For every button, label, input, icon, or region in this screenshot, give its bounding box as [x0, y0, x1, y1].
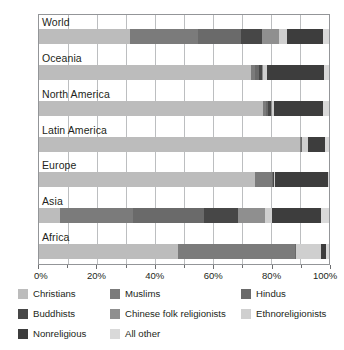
legend-label: Buddhists	[33, 308, 75, 319]
stacked-bar	[39, 208, 329, 223]
bar-segment-chinese-folk-religionists	[238, 208, 266, 223]
legend-item-christians[interactable]: Christians	[18, 288, 76, 299]
x-tick	[155, 265, 156, 269]
bar-segment-christians	[39, 101, 263, 116]
legend-label: Hindus	[256, 288, 286, 299]
x-axis: 0%20%40%60%80%100%	[38, 265, 330, 287]
legend-item-hindus[interactable]: Hindus	[241, 288, 286, 299]
bar-segment-nonreligious	[272, 208, 322, 223]
row-label-asia: Asia	[42, 195, 63, 208]
legend-item-chinese-folk-religionists[interactable]: Chinese folk religionists	[110, 308, 226, 319]
bar-segment-christians	[39, 244, 178, 259]
stacked-bar-chart: WorldOceaniaNorth AmericaLatin AmericaEu…	[0, 0, 344, 350]
x-tick-minor	[67, 265, 68, 268]
bar-segment-ethnoreligionists	[279, 29, 288, 44]
plot-area: WorldOceaniaNorth AmericaLatin AmericaEu…	[38, 14, 330, 265]
bar-segment-muslims	[130, 29, 197, 44]
bar-segment-hindus	[133, 208, 205, 223]
bar-segment-all-other	[323, 101, 329, 116]
legend-swatch	[110, 309, 120, 319]
row-label-oceania: Oceania	[42, 52, 82, 65]
legend-swatch	[241, 289, 251, 299]
bar-segment-chinese-folk-religionists	[262, 29, 279, 44]
x-tick-label: 80%	[262, 270, 281, 281]
bar-row: Europe	[39, 158, 329, 194]
bar-segment-nonreligious	[308, 137, 325, 152]
stacked-bar	[39, 137, 329, 152]
x-tick	[272, 265, 273, 269]
bar-segment-nonreligious	[287, 29, 322, 44]
chart-legend: ChristiansMuslimsHindusBuddhistsChinese …	[18, 288, 344, 346]
legend-item-ethnoreligionists[interactable]: Ethnoreligionists	[241, 308, 326, 319]
x-tick	[38, 265, 39, 269]
bar-segment-all-other	[328, 172, 329, 187]
stacked-bar	[39, 172, 329, 187]
bar-segment-muslims	[60, 208, 133, 223]
bar-row: Africa	[39, 230, 329, 266]
x-tick	[330, 265, 331, 269]
legend-swatch	[110, 329, 120, 339]
legend-swatch	[18, 329, 28, 339]
legend-label: Ethnoreligionists	[256, 308, 326, 319]
row-label-africa: Africa	[42, 231, 69, 244]
x-tick-label: 40%	[145, 270, 164, 281]
bar-segment-hindus	[198, 29, 242, 44]
legend-swatch	[110, 289, 120, 299]
bar-row: North America	[39, 87, 329, 123]
legend-label: Chinese folk religionists	[125, 308, 226, 319]
bar-segment-christians	[39, 208, 60, 223]
x-tick-label: 20%	[87, 270, 106, 281]
bar-row: Latin America	[39, 123, 329, 159]
legend-label: Nonreligious	[33, 328, 86, 339]
bar-segment-muslims	[255, 172, 272, 187]
bar-segment-christians	[39, 137, 300, 152]
bar-segment-christians	[39, 65, 251, 80]
x-tick-minor	[242, 265, 243, 268]
x-tick-minor	[126, 265, 127, 268]
row-label-latin-america: Latin America	[42, 124, 107, 137]
bar-segment-ethnoreligionists	[296, 244, 321, 259]
row-label-north-america: North America	[42, 88, 110, 101]
legend-swatch	[241, 309, 251, 319]
bar-segment-all-other	[326, 244, 329, 259]
bar-segment-muslims	[178, 244, 296, 259]
x-tick-minor	[301, 265, 302, 268]
bar-segment-all-other	[323, 29, 329, 44]
legend-swatch	[18, 309, 28, 319]
x-tick	[213, 265, 214, 269]
stacked-bar	[39, 65, 329, 80]
x-tick-label: 100%	[313, 270, 337, 281]
bar-row: World	[39, 15, 329, 51]
legend-item-all-other[interactable]: All other	[110, 328, 160, 339]
legend-item-buddhists[interactable]: Buddhists	[18, 308, 75, 319]
row-label-europe: Europe	[42, 159, 76, 172]
bar-segment-christians	[39, 172, 255, 187]
bar-segment-nonreligious	[275, 172, 327, 187]
legend-item-nonreligious[interactable]: Nonreligious	[18, 328, 86, 339]
bar-row: Oceania	[39, 51, 329, 87]
x-tick-label: 0%	[34, 270, 48, 281]
bar-segment-all-other	[325, 137, 329, 152]
legend-label: Christians	[33, 288, 76, 299]
x-tick-minor	[184, 265, 185, 268]
bar-segment-nonreligious	[267, 65, 324, 80]
bar-segment-nonreligious	[274, 101, 324, 116]
legend-label: All other	[125, 328, 160, 339]
stacked-bar	[39, 29, 329, 44]
legend-item-muslims[interactable]: Muslims	[110, 288, 160, 299]
bar-segment-buddhists	[204, 208, 237, 223]
stacked-bar	[39, 244, 329, 259]
x-tick-label: 60%	[204, 270, 223, 281]
bar-segment-buddhists	[241, 29, 262, 44]
legend-label: Muslims	[125, 288, 160, 299]
bar-segment-all-other	[321, 208, 329, 223]
bar-row: Asia	[39, 194, 329, 230]
stacked-bar	[39, 101, 329, 116]
x-tick	[96, 265, 97, 269]
bar-segment-all-other	[324, 65, 329, 80]
row-label-world: World	[42, 16, 70, 29]
legend-swatch	[18, 289, 28, 299]
bar-segment-christians	[39, 29, 130, 44]
